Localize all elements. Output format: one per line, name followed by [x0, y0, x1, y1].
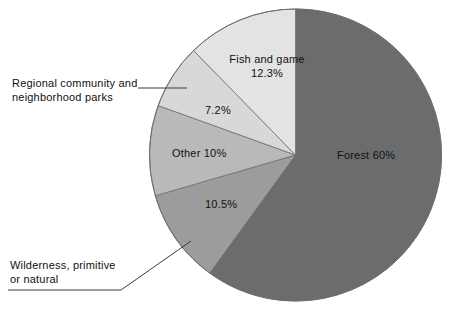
slice-label-regional-percent: 7.2%	[205, 103, 231, 117]
slice-label-fish-line1: Fish and game	[212, 52, 322, 66]
callout-label-wilderness-line2: or natural	[10, 272, 116, 286]
slice-label-other: Other 10%	[172, 146, 226, 160]
callout-label-wilderness: Wilderness, primitive or natural	[10, 258, 116, 286]
callout-label-regional-line2: neighborhood parks	[12, 90, 137, 104]
slice-label-wilderness-percent: 10.5%	[205, 197, 237, 211]
slice-label-fish: Fish and game 12.3%	[212, 52, 322, 80]
slice-label-fish-line2: 12.3%	[212, 66, 322, 80]
callout-label-regional-line1: Regional community and	[12, 76, 137, 90]
callout-label-wilderness-line1: Wilderness, primitive	[10, 258, 116, 272]
slice-label-forest: Forest 60%	[337, 148, 395, 162]
callout-label-regional: Regional community and neighborhood park…	[12, 76, 137, 104]
pie-chart-figure: Forest 60% Fish and game 12.3% 7.2% Othe…	[0, 0, 463, 309]
